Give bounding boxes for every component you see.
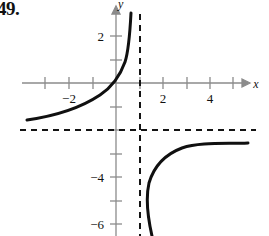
y-axis-label: y xyxy=(117,0,124,11)
x-tick-label--2: −2 xyxy=(62,91,76,106)
x-axis-arrowhead xyxy=(242,79,250,87)
x-tick-label-4: 4 xyxy=(207,91,214,106)
y-tick-label--6: −6 xyxy=(90,217,104,232)
x-axis-label: x xyxy=(252,77,259,91)
curve-right-branch xyxy=(147,143,248,236)
exercise-number: 49. xyxy=(0,0,19,20)
rational-function-graph: −2 2 4 2 −4 −6 x y xyxy=(0,0,269,236)
y-tick-label-2: 2 xyxy=(98,29,105,44)
figure-canvas: 49. xyxy=(0,0,269,236)
x-tick-label-2: 2 xyxy=(160,91,167,106)
y-tick-label--4: −4 xyxy=(90,170,104,185)
axes-group xyxy=(22,6,250,236)
